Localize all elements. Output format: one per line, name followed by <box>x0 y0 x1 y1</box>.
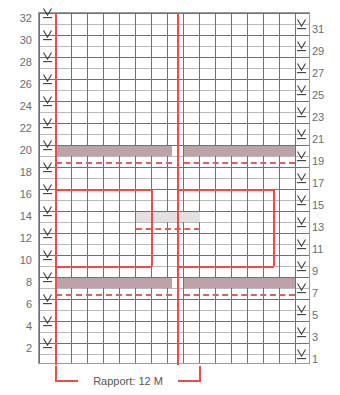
symbol-cell-row-27 <box>293 57 309 79</box>
purl-v-icon <box>42 337 53 349</box>
symbol-cell-row-31 <box>293 13 309 35</box>
purl-v-icon <box>296 326 307 338</box>
mauve-band-left-row-7 <box>56 278 172 288</box>
symbol-cell-row-30 <box>39 24 55 46</box>
symbol-cell-row-7 <box>293 277 309 299</box>
symbol-cell-row-1 <box>293 343 309 365</box>
repeat-step-bottom-left <box>55 266 152 268</box>
row-numbers-left: 3230282624222018161412108642 <box>6 12 32 364</box>
symbol-cell-row-12 <box>39 222 55 244</box>
symbol-cell-row-25 <box>293 79 309 101</box>
symbol-cell-row-10 <box>39 244 55 266</box>
symbol-cell-row-18 <box>39 156 55 178</box>
symbol-cell-row-22 <box>39 112 55 134</box>
symbol-cell-row-29 <box>293 35 309 57</box>
dashed-guide-right-row-6 <box>184 294 295 296</box>
row-number-28: 28 <box>6 51 32 73</box>
row-number-4: 4 <box>6 315 32 337</box>
row-numbers-right: 312927252321191715131197531 <box>312 12 338 364</box>
repeat-step-vert-right <box>273 189 275 266</box>
purl-v-icon <box>42 7 53 19</box>
symbol-cell-row-32 <box>39 2 55 24</box>
purl-v-icon <box>42 315 53 327</box>
repeat-step-top-right <box>177 189 274 191</box>
row-number-12: 12 <box>6 227 32 249</box>
symbol-cell-row-15 <box>293 189 309 211</box>
symbol-cell-row-14 <box>39 200 55 222</box>
row-number-15: 15 <box>312 194 338 216</box>
purl-v-icon <box>42 227 53 239</box>
symbol-cell-row-9 <box>293 255 309 277</box>
row-number-2: 2 <box>6 337 32 359</box>
row-number-1: 1 <box>312 348 338 370</box>
row-number-21: 21 <box>312 128 338 150</box>
purl-v-icon <box>42 161 53 173</box>
symbol-cell-row-26 <box>39 68 55 90</box>
purl-v-icon <box>42 249 53 261</box>
purl-v-icon <box>42 117 53 129</box>
purl-v-icon <box>42 293 53 305</box>
symbol-cell-row-28 <box>39 46 55 68</box>
symbol-cell-row-3 <box>293 321 309 343</box>
purl-v-icon <box>42 271 53 283</box>
purl-v-icon <box>296 216 307 228</box>
symbol-cell-row-21 <box>293 123 309 145</box>
row-number-22: 22 <box>6 117 32 139</box>
purl-v-icon <box>296 348 307 360</box>
row-number-7: 7 <box>312 282 338 304</box>
row-number-10: 10 <box>6 249 32 271</box>
symbol-cell-row-5 <box>293 299 309 321</box>
purl-v-icon <box>42 183 53 195</box>
purl-v-icon <box>296 40 307 52</box>
row-number-11: 11 <box>312 238 338 260</box>
grey-band-row-13 <box>136 212 200 222</box>
grid-minor-lines <box>39 13 309 363</box>
purl-v-icon <box>296 150 307 162</box>
knitting-chart-page: 3230282624222018161412108642 31292725232… <box>0 0 340 395</box>
dashed-guide-left-row-6 <box>56 294 172 296</box>
symbol-cell-row-2 <box>39 332 55 354</box>
row-number-26: 26 <box>6 73 32 95</box>
row-number-20: 20 <box>6 139 32 161</box>
row-number-16: 16 <box>6 183 32 205</box>
purl-v-icon <box>296 128 307 140</box>
row-number-32: 32 <box>6 7 32 29</box>
row-number-23: 23 <box>312 106 338 128</box>
symbol-cell-row-23 <box>293 101 309 123</box>
purl-v-icon <box>296 172 307 184</box>
row-number-30: 30 <box>6 29 32 51</box>
row-number-3: 3 <box>312 326 338 348</box>
rapport-bracket: Rapport: 12 M <box>38 366 218 394</box>
purl-v-icon <box>42 205 53 217</box>
repeat-step-bottom-right <box>177 266 274 268</box>
row-number-31: 31 <box>312 18 338 40</box>
row-number-6: 6 <box>6 293 32 315</box>
mauve-band-left-row-19 <box>56 146 172 156</box>
row-number-14: 14 <box>6 205 32 227</box>
purl-v-icon <box>296 238 307 250</box>
dashed-guide-left-row-18 <box>56 162 172 164</box>
repeat-line-left <box>55 13 57 365</box>
grid-major-lines <box>39 13 309 363</box>
repeat-step-vert-left <box>151 189 153 266</box>
purl-v-icon <box>296 260 307 272</box>
repeat-line-center <box>177 13 179 365</box>
row-number-13: 13 <box>312 216 338 238</box>
symbol-cell-row-11 <box>293 233 309 255</box>
row-number-19: 19 <box>312 150 338 172</box>
row-number-27: 27 <box>312 62 338 84</box>
chart-grid[interactable] <box>38 12 310 364</box>
row-number-25: 25 <box>312 84 338 106</box>
purl-v-icon <box>42 29 53 41</box>
symbol-cell-row-8 <box>39 266 55 288</box>
row-number-18: 18 <box>6 161 32 183</box>
repeat-step-top-left <box>55 189 152 191</box>
mauve-band-right-row-19 <box>184 146 295 156</box>
symbol-cell-row-20 <box>39 134 55 156</box>
purl-v-icon <box>296 106 307 118</box>
dashed-guide-right-row-18 <box>184 162 295 164</box>
row-number-24: 24 <box>6 95 32 117</box>
symbol-cell-row-13 <box>293 211 309 233</box>
rapport-label: Rapport: 12 M <box>78 373 178 389</box>
purl-v-icon <box>296 62 307 74</box>
